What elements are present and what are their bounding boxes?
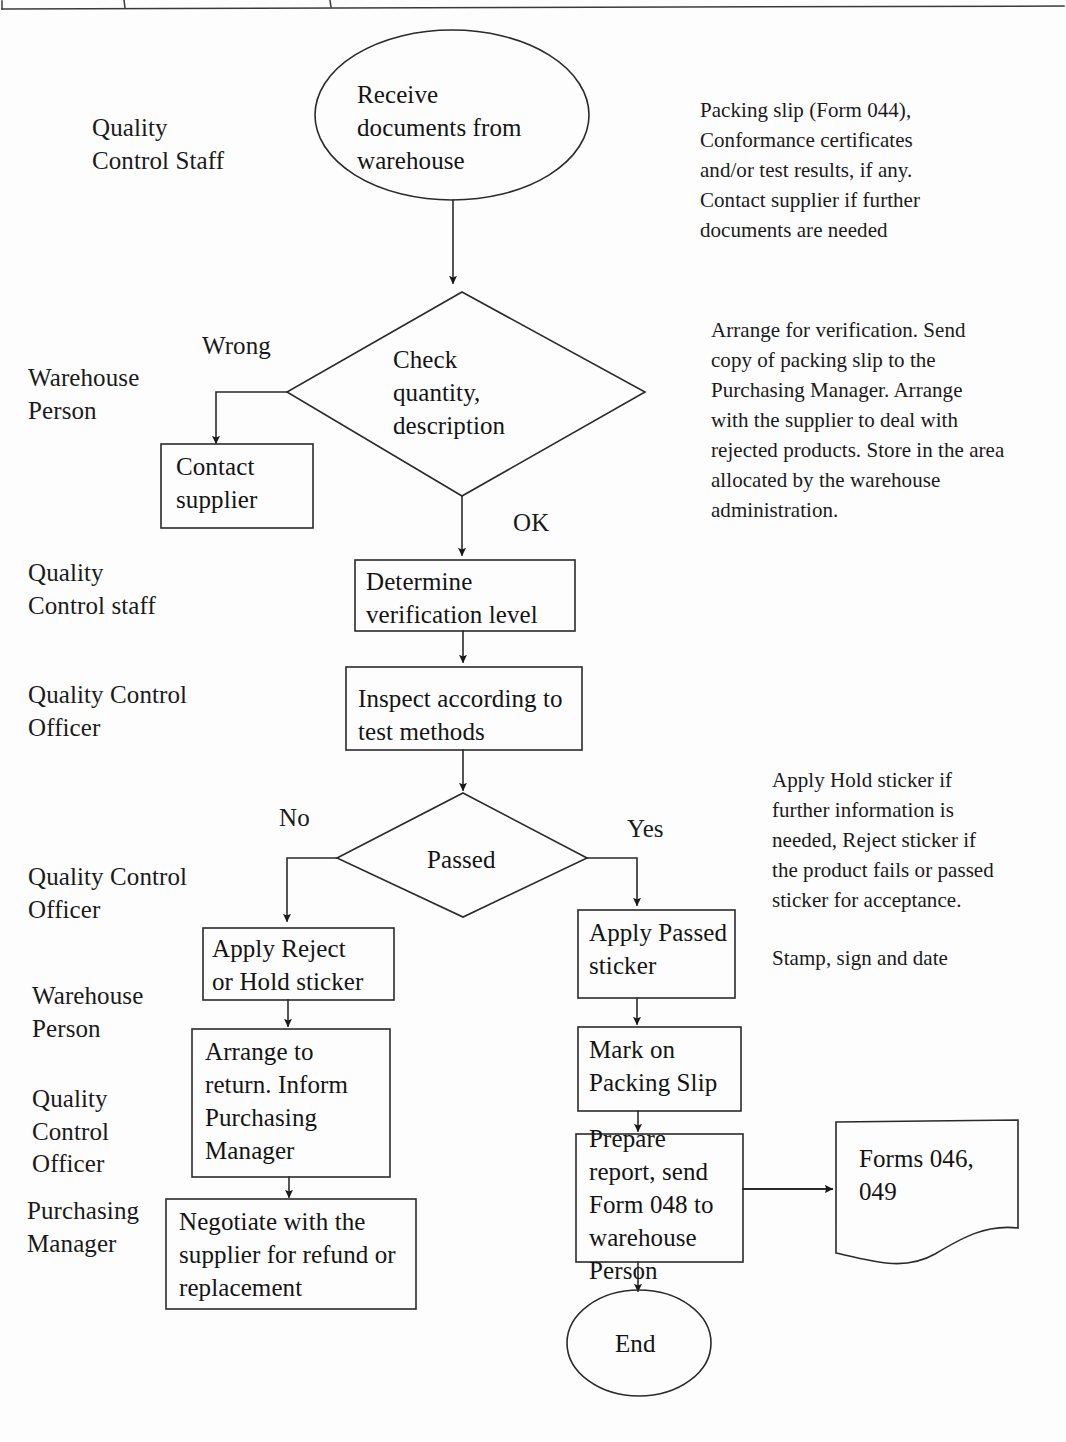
note-stickers: Apply Hold sticker if further informatio…: [772, 765, 1042, 915]
node-apply-reject-label: Apply Reject or Hold sticker: [212, 932, 392, 998]
node-end-label: End: [615, 1327, 715, 1360]
note-documents: Packing slip (Form 044), Conformance cer…: [700, 95, 990, 245]
role-label-quality-control-officer-2: Quality Control Officer: [28, 861, 187, 926]
edge-check-to-contact: [216, 392, 287, 443]
edge-passed-to-passed-sticker: [587, 858, 637, 905]
node-contact-supplier-label: Contact supplier: [176, 450, 316, 516]
node-arrange-return-label: Arrange to return. Inform Purchasing Man…: [205, 1035, 395, 1167]
edge-passed-to-reject: [287, 858, 337, 921]
role-label-quality-control-staff-2: Quality Control staff: [28, 557, 156, 622]
flowchart-page: Quality Control Staff Warehouse Person Q…: [0, 0, 1066, 1442]
edge-label-yes: Yes: [627, 814, 664, 844]
edge-label-wrong: Wrong: [202, 331, 271, 361]
edge-label-ok: OK: [513, 508, 549, 538]
edge-label-no: No: [279, 803, 310, 833]
table-remnant: [2, 0, 1064, 9]
role-label-purchasing-manager: Purchasing Manager: [27, 1195, 139, 1260]
node-apply-passed-label: Apply Passed sticker: [589, 916, 739, 982]
node-start-label: Receive documents from warehouse: [357, 78, 587, 177]
node-passed-label: Passed: [427, 843, 547, 876]
node-check-label: Check quantity, description: [393, 343, 583, 442]
role-label-quality-control-officer-3: Quality Control Officer: [32, 1083, 109, 1181]
role-label-quality-control-officer-1: Quality Control Officer: [28, 679, 187, 744]
note-verification: Arrange for verification. Send copy of p…: [711, 315, 1011, 525]
role-label-warehouse-person-2: Warehouse Person: [32, 980, 143, 1045]
note-stamp-sign-date: Stamp, sign and date: [772, 944, 1052, 973]
role-label-warehouse-person-1: Warehouse Person: [28, 362, 139, 427]
node-inspect-label: Inspect according to test methods: [358, 682, 584, 748]
node-determine-level-label: Determine verification level: [366, 565, 576, 631]
node-mark-packing-slip-label: Mark on Packing Slip: [589, 1033, 744, 1099]
node-negotiate-label: Negotiate with the supplier for refund o…: [179, 1205, 419, 1304]
node-forms-label: Forms 046, 049: [859, 1142, 1024, 1208]
node-prepare-report-label: Prepare report, send Form 048 to warehou…: [589, 1122, 749, 1287]
role-label-quality-control-staff-1: Quality Control Staff: [92, 112, 224, 177]
